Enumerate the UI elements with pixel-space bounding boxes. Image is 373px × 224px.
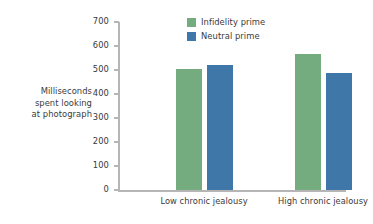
y-axis-tick: 200 [114, 141, 119, 142]
legend-swatch-green [187, 18, 196, 27]
legend: Infidelity primeNeutral prime [187, 15, 265, 43]
y-axis-tick-label: 0 [104, 184, 109, 194]
y-axis-tick: 100 [114, 165, 119, 166]
y-axis-tick: 0 [114, 189, 119, 190]
x-axis-label-low-chronic-jealousy: Low chronic jealousy [144, 196, 264, 206]
y-axis-tick: 500 [114, 69, 119, 70]
y-axis-tick: 300 [114, 117, 119, 118]
legend-item-neutral-prime: Neutral prime [187, 29, 265, 43]
y-axis-tick: 600 [114, 45, 119, 46]
legend-label: Infidelity prime [201, 17, 265, 27]
y-axis-title: Milliseconds spent looking at photograph [8, 86, 92, 121]
y-axis-tick: 400 [114, 93, 119, 94]
legend-item-infidelity-prime: Infidelity prime [187, 15, 265, 29]
y-axis-tick-label: 700 [93, 16, 109, 26]
y-axis-tick-label: 400 [93, 88, 109, 98]
legend-label: Neutral prime [201, 31, 260, 41]
x-axis-label-high-chronic-jealousy: High chronic jealousy [263, 196, 373, 206]
y-axis-title-line-2: spent looking [8, 98, 92, 110]
y-axis-tick-label: 600 [93, 40, 109, 50]
bar-infidelity-prime-low [176, 69, 202, 190]
y-axis-title-line-1: Milliseconds [8, 86, 92, 98]
bar-neutral-prime-low [207, 65, 233, 190]
y-axis-title-line-3: at photograph [8, 109, 92, 121]
y-axis-tick-label: 500 [93, 64, 109, 74]
y-axis-tick-label: 100 [93, 160, 109, 170]
bar-infidelity-prime-high [295, 54, 321, 190]
y-axis-tick-label: 300 [93, 112, 109, 122]
bar-neutral-prime-high [326, 73, 352, 190]
y-axis-tick-label: 200 [93, 136, 109, 146]
legend-swatch-blue [187, 32, 196, 41]
x-axis-line [118, 190, 346, 192]
plot-area: 0100200300400500600700 Low chronic jealo… [118, 20, 346, 191]
y-axis-tick: 700 [114, 21, 119, 22]
